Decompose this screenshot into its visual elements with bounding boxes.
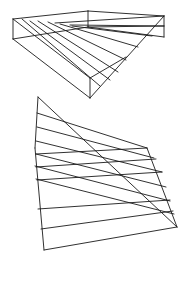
bottom-ruled-surface: [35, 97, 177, 250]
bottom-ruling-line: [37, 113, 147, 148]
top-ruling-line: [60, 24, 138, 47]
top-frame-edge: [13, 39, 90, 98]
top-ruling-line: [88, 26, 164, 27]
top-frame-edge: [13, 11, 88, 19]
bottom-ruling-line: [36, 154, 166, 187]
top-ruling-line: [55, 16, 164, 23]
bottom-frame-edge: [35, 148, 44, 250]
wireframe-drawing: [0, 0, 180, 293]
bottom-frame-edge: [44, 227, 177, 250]
bottom-ruling-line: [37, 172, 162, 180]
top-frame-edge: [90, 57, 126, 78]
top-ruled-surface: [13, 11, 164, 98]
bottom-ruling-line: [36, 148, 147, 154]
top-frame-edge: [88, 11, 164, 16]
top-ruling-line: [13, 19, 90, 78]
bottom-frame-edge: [35, 97, 38, 148]
bottom-frame-edge: [147, 148, 177, 227]
bottom-ruling-line: [41, 211, 173, 229]
bottom-ruling-line: [36, 141, 162, 172]
